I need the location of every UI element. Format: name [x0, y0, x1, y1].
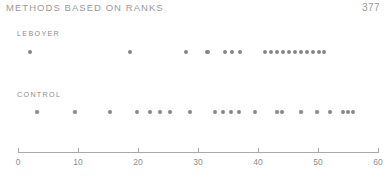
- data-point: [128, 50, 132, 54]
- data-point: [73, 110, 77, 114]
- data-point: [213, 110, 217, 114]
- data-point: [341, 110, 345, 114]
- page-number: 377: [362, 2, 380, 13]
- data-point: [299, 50, 303, 54]
- data-point: [108, 110, 112, 114]
- data-point: [351, 110, 355, 114]
- data-point: [287, 50, 291, 54]
- data-point: [275, 110, 279, 114]
- page-container: METHODS BASED ON RANKS 377 LEBOYER CONTR…: [0, 0, 388, 181]
- data-point: [168, 110, 172, 114]
- data-point: [237, 110, 241, 114]
- axis-tick-label: 40: [253, 157, 262, 167]
- axis-tick: [138, 148, 139, 153]
- data-point: [148, 110, 152, 114]
- axis-tick: [18, 148, 19, 153]
- data-point: [275, 50, 279, 54]
- data-point: [158, 110, 162, 114]
- data-point: [299, 110, 303, 114]
- series-label-control: CONTROL: [17, 90, 61, 99]
- data-point: [311, 50, 315, 54]
- data-point: [223, 50, 227, 54]
- data-point: [206, 50, 210, 54]
- dot-plot: LEBOYER CONTROL 0102030405060: [0, 20, 388, 181]
- data-point: [317, 50, 321, 54]
- data-point: [315, 110, 319, 114]
- data-point: [263, 50, 267, 54]
- axis-tick: [78, 148, 79, 153]
- data-point: [135, 110, 139, 114]
- series-strip-leboyer: [0, 46, 388, 58]
- data-point: [188, 110, 192, 114]
- axis-tick-label: 0: [16, 157, 21, 167]
- axis-tick-label: 50: [313, 157, 322, 167]
- data-point: [238, 50, 242, 54]
- axis-tick: [378, 148, 379, 153]
- axis-tick: [198, 148, 199, 153]
- data-point: [280, 110, 284, 114]
- axis-tick-label: 20: [133, 157, 142, 167]
- data-point: [305, 50, 309, 54]
- data-point: [322, 50, 326, 54]
- axis-tick-label: 60: [373, 157, 382, 167]
- data-point: [293, 50, 297, 54]
- axis-tick: [258, 148, 259, 153]
- data-point: [35, 110, 39, 114]
- data-point: [229, 110, 233, 114]
- data-point: [184, 50, 188, 54]
- data-point: [281, 50, 285, 54]
- running-head: METHODS BASED ON RANKS: [6, 2, 164, 13]
- axis-tick-label: 30: [193, 157, 202, 167]
- data-point: [28, 50, 32, 54]
- data-point: [221, 110, 225, 114]
- series-strip-control: [0, 106, 388, 118]
- data-point: [253, 110, 257, 114]
- series-label-leboyer: LEBOYER: [17, 29, 60, 38]
- data-point: [230, 50, 234, 54]
- x-axis: 0102030405060: [0, 152, 388, 181]
- axis-tick: [318, 148, 319, 153]
- data-point: [328, 110, 332, 114]
- data-point: [269, 50, 273, 54]
- axis-tick-label: 10: [73, 157, 82, 167]
- data-point: [346, 110, 350, 114]
